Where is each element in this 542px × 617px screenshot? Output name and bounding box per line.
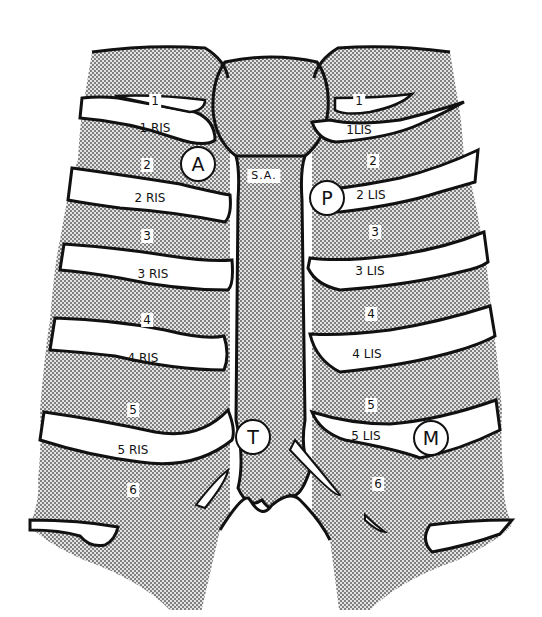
intercostal-space-label: 5 LIS [351, 429, 380, 443]
aortic-point-label: A [192, 153, 205, 175]
rib-label: 5 [127, 403, 139, 417]
rib-label: 1 [353, 94, 365, 108]
tricuspid-point-label: T [247, 426, 259, 448]
pulmonic-point: P [309, 180, 345, 216]
intercostal-space-label: 1 RIS [140, 121, 171, 135]
intercostal-space-label: 4 LIS [352, 347, 381, 361]
rib-label: 3 [369, 225, 381, 239]
rib-label: 3 [141, 229, 153, 243]
intercostal-space-label: 5 RIS [118, 443, 149, 457]
mitral-point-label: M [423, 427, 439, 449]
intercostal-space-label: 2 LIS [356, 188, 385, 202]
rib-label: 2 [367, 154, 379, 168]
mitral-point: M [413, 420, 449, 456]
intercostal-space-label: 4 RIS [128, 351, 159, 365]
rib-label: 4 [365, 307, 377, 321]
aortic-point: A [180, 146, 216, 182]
rib-label: 5 [365, 398, 377, 412]
intercostal-space-label: 2 RIS [135, 191, 166, 205]
intercostal-space-label: 3 LIS [355, 264, 384, 278]
sternal-angle-label: S.A. [247, 169, 280, 183]
chest-diagram [0, 0, 542, 617]
pulmonic-point-label: P [321, 187, 332, 209]
intercostal-space-label: 1LIS [346, 123, 371, 137]
rib-label: 6 [127, 483, 139, 497]
rib-label: 1 [149, 94, 161, 108]
rib-label: 6 [372, 477, 384, 491]
rib-label: 2 [141, 158, 153, 172]
rib-label: 4 [141, 313, 153, 327]
tricuspid-point: T [235, 419, 271, 455]
intercostal-space-label: 3 RIS [138, 267, 169, 281]
